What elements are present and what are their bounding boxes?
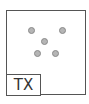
dot-icon xyxy=(52,50,59,57)
dot-icon xyxy=(59,27,66,34)
tile-label: TX xyxy=(14,78,33,93)
dot-icon xyxy=(28,27,35,34)
tile-label-box: TX xyxy=(6,74,41,96)
dot-icon xyxy=(34,50,41,57)
dot-icon xyxy=(41,38,48,45)
